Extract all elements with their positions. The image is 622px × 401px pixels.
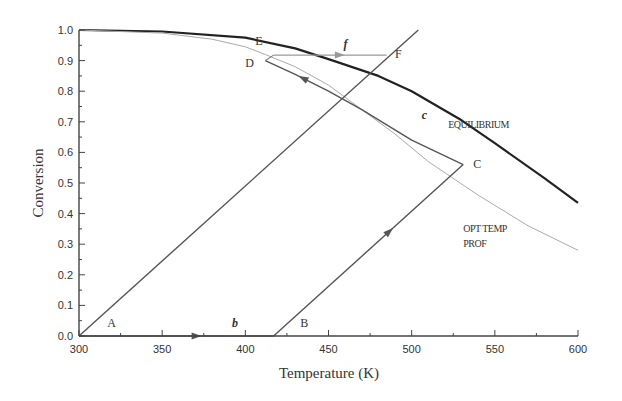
y-tick-label: 0.8	[58, 85, 73, 97]
series-path-c-c-to-d-along-optimum-	[265, 61, 463, 165]
series-opt-temp-prof	[79, 30, 578, 250]
annotation-label: c	[422, 108, 428, 122]
x-tick-label: 600	[569, 343, 587, 355]
annotation-label: D	[245, 56, 254, 70]
y-tick-label: 0.7	[58, 116, 73, 128]
annotation-label: F	[395, 47, 402, 61]
arrow-head-icon	[335, 52, 345, 59]
series-adiabatic-reaction-b-to-c	[274, 165, 464, 336]
series-equilibrium	[79, 30, 578, 203]
axes: 3003504004505005506000.00.10.20.30.40.50…	[58, 24, 587, 355]
annotation-label: PROF	[463, 238, 487, 249]
x-tick-label: 450	[319, 343, 337, 355]
annotation-label: f	[343, 37, 348, 51]
y-tick-label: 0.1	[58, 299, 73, 311]
annotation-label: EQUILIBRIUM	[448, 119, 509, 130]
annotation-label: b	[232, 316, 238, 330]
annotation-label: E	[255, 34, 262, 48]
arrow-head-icon	[299, 76, 310, 84]
chart: 3003504004505005506000.00.10.20.30.40.50…	[0, 0, 622, 401]
x-tick-label: 550	[486, 343, 504, 355]
y-tick-label: 0.5	[58, 177, 73, 189]
x-tick-label: 400	[236, 343, 254, 355]
series-adiabatic-line-a	[79, 30, 418, 336]
annotation-label: B	[300, 316, 308, 330]
y-axis-title: Conversion	[30, 148, 46, 218]
y-tick-label: 0.3	[58, 238, 73, 250]
x-tick-label: 300	[70, 343, 88, 355]
y-tick-label: 0.0	[58, 330, 73, 342]
x-axis-title: Temperature (K)	[279, 365, 379, 382]
plot-area	[79, 30, 578, 340]
x-tick-label: 350	[153, 343, 171, 355]
y-tick-label: 0.6	[58, 146, 73, 158]
y-tick-label: 1.0	[58, 24, 73, 36]
annotation-label: A	[107, 316, 116, 330]
annotation-label: C	[473, 157, 481, 171]
y-tick-label: 0.4	[58, 208, 73, 220]
annotation-label: OPT TEMP	[463, 223, 508, 234]
x-tick-label: 500	[402, 343, 420, 355]
y-tick-label: 0.9	[58, 55, 73, 67]
y-tick-label: 0.2	[58, 269, 73, 281]
